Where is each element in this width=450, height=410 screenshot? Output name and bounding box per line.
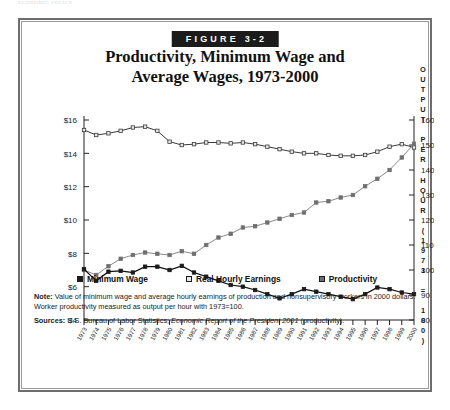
series-real-hourly-earnings	[82, 125, 415, 158]
legend-swatch-icon-productivity	[319, 276, 325, 282]
legend-item-real-hourly-earnings: Real Hourly Earnings	[186, 274, 281, 284]
figure-title-line-1: Productivity, Minimum Wage and	[20, 47, 430, 67]
note-text: Value of minimum wage and average hourly…	[34, 292, 416, 311]
left-tick-label: $6	[68, 283, 77, 292]
left-tick-label: $8	[68, 250, 77, 259]
legend-swatch-icon-real-hourly-earnings	[186, 276, 192, 282]
note-label: Note:	[34, 292, 53, 301]
sources-paragraph: Sources: U.S. Bureau of Labor Statistics…	[34, 316, 418, 326]
figure-number-badge: FIGURE 3-2	[172, 31, 279, 47]
sources-pre-text: U.S. Bureau of Labor Statistics;	[65, 316, 171, 325]
left-tick-label: $12	[64, 183, 78, 192]
figure-notes: Note: Value of minimum wage and average …	[34, 292, 418, 331]
legend-label-real-hourly-earnings: Real Hourly Earnings	[196, 274, 281, 284]
sources-italic-title: Economic Report of the President 2001	[171, 316, 298, 325]
sources-label: Sources:	[34, 316, 65, 325]
note-paragraph: Note: Value of minimum wage and average …	[34, 292, 418, 311]
legend-label-minimum-wage: Minimum Wage	[87, 274, 148, 284]
sources-post-text: (productivity).	[298, 316, 344, 325]
left-tick-label: $16	[64, 116, 78, 125]
running-head: ECONOMIC POLICY	[18, 0, 73, 5]
legend-label-productivity: Productivity	[329, 274, 377, 284]
figure-frame: FIGURE 3-2 Productivity, Minimum Wage an…	[18, 18, 432, 392]
series-productivity	[82, 142, 415, 277]
figure-title: Productivity, Minimum Wage and Average W…	[20, 47, 430, 87]
chart-legend: Minimum Wage Real Hourly Earnings Produc…	[20, 274, 434, 284]
legend-item-productivity: Productivity	[319, 274, 377, 284]
chart-axes	[84, 116, 414, 320]
legend-swatch-icon-minimum-wage	[77, 276, 83, 282]
figure-title-line-2: Average Wages, 1973-2000	[20, 67, 430, 87]
left-tick-label: $14	[64, 150, 78, 159]
left-tick-label: $10	[64, 216, 78, 225]
legend-item-minimum-wage: Minimum Wage	[77, 274, 148, 284]
